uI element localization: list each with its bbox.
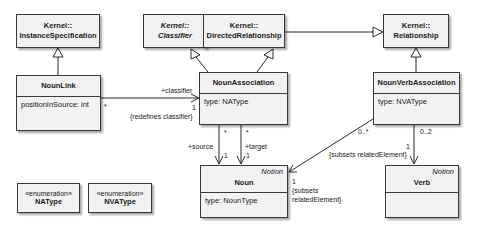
class-name: NounAssociation [200,73,287,93]
class-namespace: Kernel:: [384,21,448,31]
class-attribute: type: NounType [201,192,287,208]
enum-stereotype: «enumeration» [89,190,151,197]
class-namespace: Kernel:: [144,21,206,31]
multiplicity-label: 1 [246,152,250,160]
constraint-label: relatedElement} [292,196,341,204]
class-noun[interactable]: Notion Noun type: NounType [200,165,288,218]
multiplicity-label: 1 [192,104,196,112]
class-noun-link[interactable]: NounLink positionInSource: int [16,75,101,131]
class-noun-verb-association[interactable]: NounVerbAssociation type: NVAType [373,72,460,125]
class-instance-specification[interactable]: Kernel:: InstanceSpecification [16,14,100,48]
class-classifier[interactable]: Kernel:: Classifier [143,14,207,48]
class-attribute: type: NAType [200,93,287,109]
constraint-label: {subsets relatedElement} [329,151,407,159]
multiplicity-label: 0..* [358,128,369,136]
enum-stereotype: «enumeration» [18,190,79,197]
enum-na-type[interactable]: «enumeration» NAType [17,183,80,213]
class-attribute-section [386,192,458,219]
class-attribute: positionInSource: int [17,96,100,112]
class-namespace: Kernel:: [17,21,99,31]
multiplicity-label: 1 [406,143,410,151]
class-namespace: Kernel:: [204,21,284,31]
enum-name: NVAType [89,197,151,207]
role-label: +target [245,143,267,151]
class-name: NounVerbAssociation [374,73,459,93]
class-verb[interactable]: Notion Verb [385,165,459,218]
class-attribute: type: NVAType [374,93,459,109]
role-label: +classifier [161,87,192,95]
class-name: DirectedRelationship [204,31,284,41]
multiplicity-label: 1 [292,178,296,186]
class-stereotype: Notion [261,167,283,176]
class-relationship[interactable]: Kernel:: Relationship [383,14,449,48]
multiplicity-label: 0..2 [420,128,432,136]
class-stereotype: Notion [432,167,454,176]
class-name: Relationship [384,31,448,41]
constraint-label: {subsets [292,187,318,195]
multiplicity-label: * [224,129,227,137]
multiplicity-label: * [104,103,107,111]
enum-name: NAType [18,197,79,207]
class-name: NounLink [17,76,100,96]
enum-nva-type[interactable]: «enumeration» NVAType [88,183,152,213]
class-name: Classifier [144,31,206,41]
multiplicity-label: 1 [224,152,228,160]
class-name: InstanceSpecification [17,31,99,41]
multiplicity-label: * [246,129,249,137]
role-label: +source [188,143,213,151]
constraint-label: {redefines classifier} [130,113,193,121]
class-noun-association[interactable]: NounAssociation type: NAType [199,72,288,125]
class-directed-relationship[interactable]: Kernel:: DirectedRelationship [203,14,285,48]
